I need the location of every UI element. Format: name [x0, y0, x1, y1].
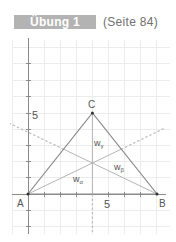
- label-c: C: [88, 99, 95, 110]
- w-alpha-line: [28, 149, 121, 194]
- x-axis-label-5: 5: [104, 198, 110, 210]
- y-axis-label-5: 5: [32, 109, 38, 121]
- w-beta-line: [64, 149, 157, 194]
- triangle-diagram: A B C 5 5 wγ wβ wα: [0, 0, 176, 242]
- label-w-beta: wβ: [113, 162, 125, 173]
- label-b: B: [159, 198, 166, 209]
- point-c: [91, 112, 94, 115]
- label-w-alpha: wα: [72, 174, 84, 185]
- bisectors: [28, 113, 157, 194]
- label-w-gamma: wγ: [93, 138, 104, 149]
- point-b: [156, 193, 159, 196]
- point-a: [27, 193, 30, 196]
- label-a: A: [17, 198, 24, 209]
- w-alpha-extension: [121, 128, 165, 149]
